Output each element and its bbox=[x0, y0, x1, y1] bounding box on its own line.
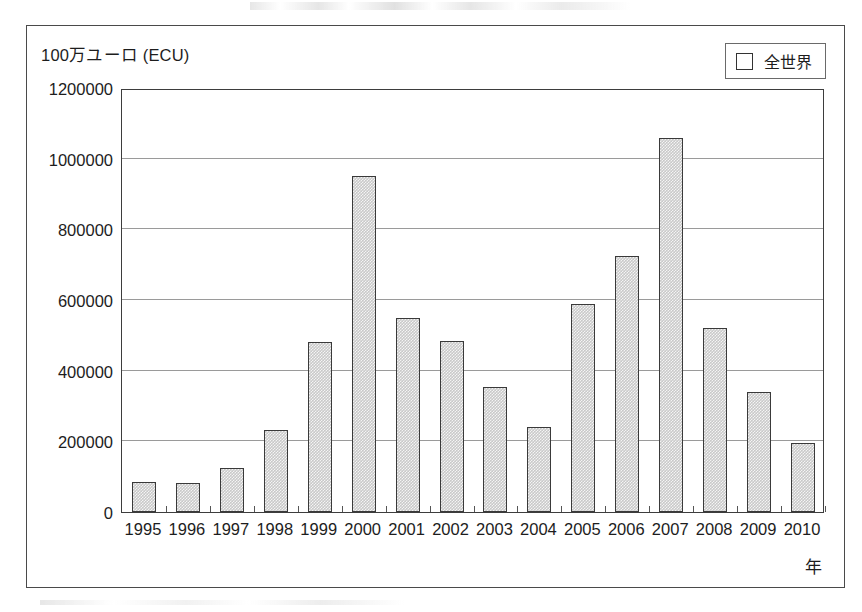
bar bbox=[308, 342, 332, 512]
x-axis-tick bbox=[693, 506, 694, 512]
x-axis-tick-label: 1998 bbox=[256, 520, 293, 539]
x-axis-tick-labels: 1995199619971998199920002001200220032004… bbox=[121, 520, 824, 544]
x-axis-title: 年 bbox=[805, 553, 822, 578]
x-axis-tick-label: 2010 bbox=[784, 520, 821, 539]
y-axis-tick-label: 0 bbox=[104, 504, 113, 523]
x-axis-tick-label: 2000 bbox=[344, 520, 381, 539]
bar bbox=[352, 176, 376, 512]
x-axis-tick-label: 2004 bbox=[520, 520, 557, 539]
x-axis-tick bbox=[210, 506, 211, 512]
bar bbox=[396, 318, 420, 512]
x-axis-tick bbox=[474, 506, 475, 512]
y-axis-tick-label: 1000000 bbox=[49, 150, 113, 169]
scan-artifact-top bbox=[250, 2, 630, 10]
bar bbox=[615, 256, 639, 512]
bars-layer bbox=[122, 90, 823, 512]
y-axis-tick-labels: 020000040000060000080000010000001200000 bbox=[27, 89, 113, 513]
legend: 全世界 bbox=[725, 43, 826, 79]
y-axis-tick-label: 400000 bbox=[58, 362, 113, 381]
legend-item-label: 全世界 bbox=[764, 49, 812, 73]
empty-square-icon bbox=[736, 53, 753, 70]
x-axis-tick-label: 2002 bbox=[432, 520, 469, 539]
x-axis-tick-label: 2005 bbox=[564, 520, 601, 539]
x-axis-tick bbox=[298, 506, 299, 512]
x-axis-tick bbox=[386, 506, 387, 512]
x-axis-tick bbox=[254, 506, 255, 512]
x-axis-tick bbox=[430, 506, 431, 512]
x-axis-tick bbox=[561, 506, 562, 512]
x-axis-tick-label: 1999 bbox=[300, 520, 337, 539]
x-axis-tick-label: 2006 bbox=[608, 520, 645, 539]
x-axis-tick-label: 1996 bbox=[169, 520, 206, 539]
x-axis-tick bbox=[781, 506, 782, 512]
bar bbox=[132, 482, 156, 512]
bar bbox=[747, 392, 771, 512]
x-axis-tick-label: 1997 bbox=[212, 520, 249, 539]
y-axis-tick-label: 1200000 bbox=[49, 80, 113, 99]
bar bbox=[176, 483, 200, 512]
plot-area bbox=[121, 89, 824, 513]
x-axis-tick-label: 2001 bbox=[388, 520, 425, 539]
bar bbox=[703, 328, 727, 512]
y-axis-unit-label: 100万ユーロ (ECU) bbox=[41, 42, 190, 66]
bar bbox=[659, 138, 683, 512]
x-axis-tick-label: 2007 bbox=[652, 520, 689, 539]
x-axis-tick bbox=[825, 506, 826, 512]
bar bbox=[220, 468, 244, 512]
x-axis-tick bbox=[737, 506, 738, 512]
x-axis-tick bbox=[517, 506, 518, 512]
scan-artifact-bottom bbox=[40, 600, 560, 605]
x-axis-tick-label: 2009 bbox=[740, 520, 777, 539]
x-axis-tick bbox=[166, 506, 167, 512]
figure-frame: 100万ユーロ (ECU) 02000004000006000008000001… bbox=[26, 25, 845, 588]
bar bbox=[527, 427, 551, 512]
y-axis-tick-label: 200000 bbox=[58, 433, 113, 452]
x-axis-tick-label: 2008 bbox=[696, 520, 733, 539]
x-axis-tick-label: 2003 bbox=[476, 520, 513, 539]
x-axis-tick-label: 1995 bbox=[125, 520, 162, 539]
y-axis-tick-label: 800000 bbox=[58, 221, 113, 240]
bar bbox=[571, 304, 595, 512]
y-axis-tick-label: 600000 bbox=[58, 292, 113, 311]
x-axis-tick bbox=[649, 506, 650, 512]
bar bbox=[440, 341, 464, 512]
bar bbox=[264, 430, 288, 512]
bar bbox=[791, 443, 815, 512]
bar bbox=[483, 387, 507, 512]
x-axis-tick bbox=[342, 506, 343, 512]
x-axis-tick bbox=[605, 506, 606, 512]
